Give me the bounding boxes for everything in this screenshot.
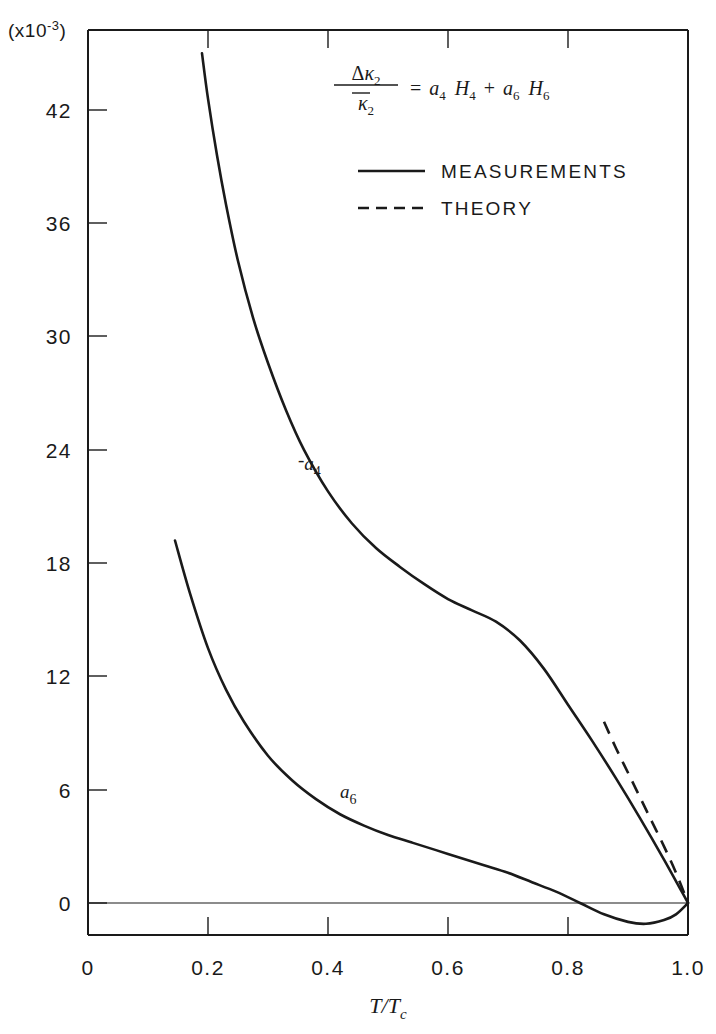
equation-rhs: =a4H4+a6H6 xyxy=(410,77,550,103)
x-tick-label-1p0: 1.0 xyxy=(671,956,705,979)
x-axis-title: T/Tc xyxy=(369,993,407,1022)
y-axis-tick-labels: 0 6 12 18 24 30 36 42 xyxy=(46,99,72,915)
equation-kappa-num: κ xyxy=(364,62,374,84)
equation-numerator: Δκ2 xyxy=(352,62,381,88)
curve-label-a6-base: a xyxy=(340,781,350,802)
data-curves xyxy=(175,53,688,923)
y-tick-label-6: 6 xyxy=(59,779,72,802)
x-tick-label-0p2: 0.2 xyxy=(191,956,225,979)
curve-a6 xyxy=(175,540,688,923)
y-tick-label-30: 30 xyxy=(46,325,72,348)
curve-theory xyxy=(604,722,688,903)
legend-label-measurements: MEASUREMENTS xyxy=(441,161,628,182)
y-axis-unit-label: (x10-3) xyxy=(8,18,66,41)
equation-kappa-num-sub: 2 xyxy=(374,73,381,88)
curve-label-a4-base: a xyxy=(304,453,314,474)
equation-a4: a xyxy=(429,77,439,99)
y-unit-exponent: -3 xyxy=(47,18,60,33)
equation-denominator: κ2 xyxy=(358,92,374,118)
legend-label-theory: THEORY xyxy=(441,198,533,219)
equation-plus: + xyxy=(484,77,495,99)
equation-h4: H xyxy=(454,77,471,99)
equation-kappa-den: κ xyxy=(358,92,368,114)
equation-h6-sub: 6 xyxy=(543,88,550,103)
x-tick-label-0: 0 xyxy=(81,956,94,979)
equation-annotation: Δκ2 κ2 =a4H4+a6H6 xyxy=(334,62,550,118)
equation-delta: Δ xyxy=(352,62,365,84)
equation-kappa-den-sub: 2 xyxy=(368,103,375,118)
equation-h6: H xyxy=(528,77,545,99)
equation-a6: a xyxy=(503,77,513,99)
x-axis-ticks xyxy=(88,917,688,935)
y-tick-label-0: 0 xyxy=(59,892,72,915)
y-tick-label-18: 18 xyxy=(46,552,72,575)
curve-label-a4-sub: 4 xyxy=(314,464,321,479)
y-tick-label-36: 36 xyxy=(46,212,72,235)
x-tick-label-0p4: 0.4 xyxy=(311,956,345,979)
curve-label-minus-a4: -a4 xyxy=(298,449,321,479)
curve-label-a6-sub: 6 xyxy=(350,792,357,807)
equation-a6-sub: 6 xyxy=(513,88,520,103)
x-axis-ticks-top xyxy=(208,30,568,48)
y-unit-suffix: ) xyxy=(60,20,67,41)
curve-label-a6: a6 xyxy=(340,781,357,807)
x-axis-tick-labels: 0 0.2 0.4 0.6 0.8 1.0 xyxy=(81,956,704,979)
y-tick-label-12: 12 xyxy=(46,665,72,688)
chart-svg: 0 6 12 18 24 30 36 42 (x10-3) xyxy=(0,0,716,1034)
y-unit-prefix: (x10 xyxy=(8,20,47,41)
y-tick-label-42: 42 xyxy=(46,99,72,122)
x-tick-label-0p8: 0.8 xyxy=(551,956,585,979)
x-axis-title-den-sub: c xyxy=(400,1006,407,1022)
y-axis-ticks xyxy=(88,110,107,903)
chart-legend: MEASUREMENTS THEORY xyxy=(358,161,628,219)
equation-equals: = xyxy=(410,77,421,99)
equation-a4-sub: 4 xyxy=(439,88,446,103)
x-tick-label-0p6: 0.6 xyxy=(431,956,465,979)
y-tick-label-24: 24 xyxy=(46,439,72,462)
chart-figure: 0 6 12 18 24 30 36 42 (x10-3) xyxy=(0,0,716,1034)
equation-h4-sub: 4 xyxy=(469,88,476,103)
